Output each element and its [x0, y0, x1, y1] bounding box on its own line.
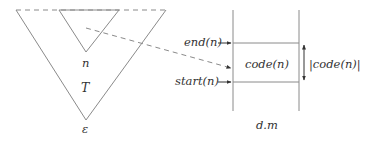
tree-triangle-outer	[16, 10, 166, 120]
memory-region-label: d.m	[256, 120, 278, 132]
subtree-triangle-n	[59, 10, 119, 52]
code-label: code(n)	[245, 59, 289, 71]
node-label-n: n	[82, 58, 89, 70]
start-label: start(n)	[175, 76, 219, 88]
tree-label-T: T	[81, 82, 89, 95]
end-label: end(n)	[184, 37, 222, 49]
root-label-epsilon: ε	[82, 124, 88, 136]
code-size-label: |code(n)|	[309, 59, 361, 71]
